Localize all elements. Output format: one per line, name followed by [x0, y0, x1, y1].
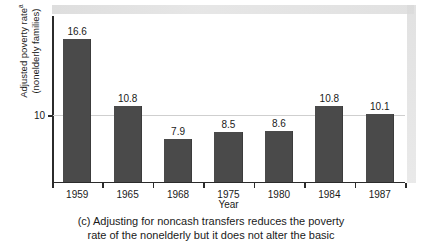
x-tick-mark: [153, 183, 155, 188]
bar-group[interactable]: 10.1: [366, 17, 394, 182]
x-tick-mark: [304, 183, 306, 188]
x-tick-mark: [355, 183, 357, 188]
bar[interactable]: [315, 106, 343, 182]
bar-group[interactable]: 10.8: [114, 17, 142, 182]
bar[interactable]: [114, 106, 142, 182]
bar-group[interactable]: 10.8: [315, 17, 343, 182]
bar-value-label: 10.1: [370, 101, 389, 112]
bar-value-label: 7.9: [171, 126, 185, 137]
y-tick-label: 10: [34, 110, 45, 121]
x-axis-line: [52, 182, 405, 184]
scan-artifact-right-band: [407, 5, 416, 183]
figure-bar-chart: Adjusted poverty ratea (nonelderly famil…: [0, 0, 422, 243]
bar[interactable]: [366, 114, 394, 182]
x-axis-title: Year: [52, 199, 405, 210]
x-tick-mark: [52, 183, 54, 188]
x-tick-mark: [102, 183, 104, 188]
bar-value-label: 8.6: [272, 118, 286, 129]
caption-line-2: rate of the nonelderly but it does not a…: [0, 228, 422, 242]
bar-series: 16.610.87.98.58.610.810.1: [52, 17, 405, 182]
bar-value-label: 10.8: [118, 93, 137, 104]
x-tick-mark: [203, 183, 205, 188]
y-axis-title-line1: Adjusted poverty rate: [18, 8, 29, 98]
figure-caption: (c) Adjusting for noncash transfers redu…: [0, 214, 422, 242]
plot-area: 10 16.610.87.98.58.610.810.1 19591965196…: [52, 16, 405, 183]
bar-group[interactable]: 16.6: [63, 17, 91, 182]
bar[interactable]: [164, 139, 192, 181]
bar-group[interactable]: 8.6: [265, 17, 293, 182]
bar-value-label: 10.8: [320, 93, 339, 104]
y-axis-title-superscript: a: [17, 4, 24, 8]
bar-value-label: 16.6: [67, 26, 86, 37]
bar-group[interactable]: 7.9: [164, 17, 192, 182]
bar[interactable]: [265, 131, 293, 181]
x-tick-mark: [254, 183, 256, 188]
x-tick-mark: [405, 183, 407, 188]
bar[interactable]: [63, 39, 91, 181]
bar[interactable]: [214, 132, 242, 181]
bar-group[interactable]: 8.5: [214, 17, 242, 182]
scan-artifact-top-band: [52, 5, 414, 14]
y-axis-title-line2: (nonelderly families): [30, 9, 41, 94]
bar-value-label: 8.5: [222, 119, 236, 130]
caption-line-1: (c) Adjusting for noncash transfers redu…: [0, 214, 422, 228]
